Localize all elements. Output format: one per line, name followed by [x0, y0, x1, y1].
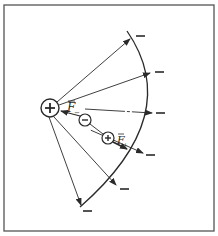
- svg-text:+: +: [123, 141, 128, 148]
- field-line: [54, 117, 116, 185]
- electric-field-diagram: F − F +: [0, 0, 218, 236]
- source-positive-charge: [41, 99, 59, 117]
- field-line: [85, 109, 152, 113]
- svg-text:−: −: [74, 109, 80, 117]
- force-plus-label: F +: [116, 134, 128, 148]
- dipole-negative-charge: [79, 114, 91, 126]
- arc-minus-signs: [83, 36, 165, 211]
- force-minus-label: F −: [66, 101, 80, 117]
- figure-frame: [4, 5, 214, 231]
- field-line: [49, 117, 81, 205]
- field-lines: [49, 39, 152, 205]
- dipole-positive-charge: [102, 132, 114, 144]
